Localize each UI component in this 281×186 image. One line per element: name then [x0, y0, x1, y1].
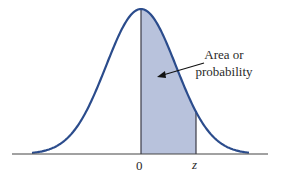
tick-label-zero: 0: [136, 158, 143, 174]
annotation-line-2: probability: [184, 64, 264, 80]
annotation-line-1: Area or: [184, 47, 264, 63]
shaded-area: [141, 9, 196, 154]
normal-distribution-diagram: 0 z Area or probability: [0, 0, 281, 186]
tick-label-z: z: [192, 157, 197, 173]
